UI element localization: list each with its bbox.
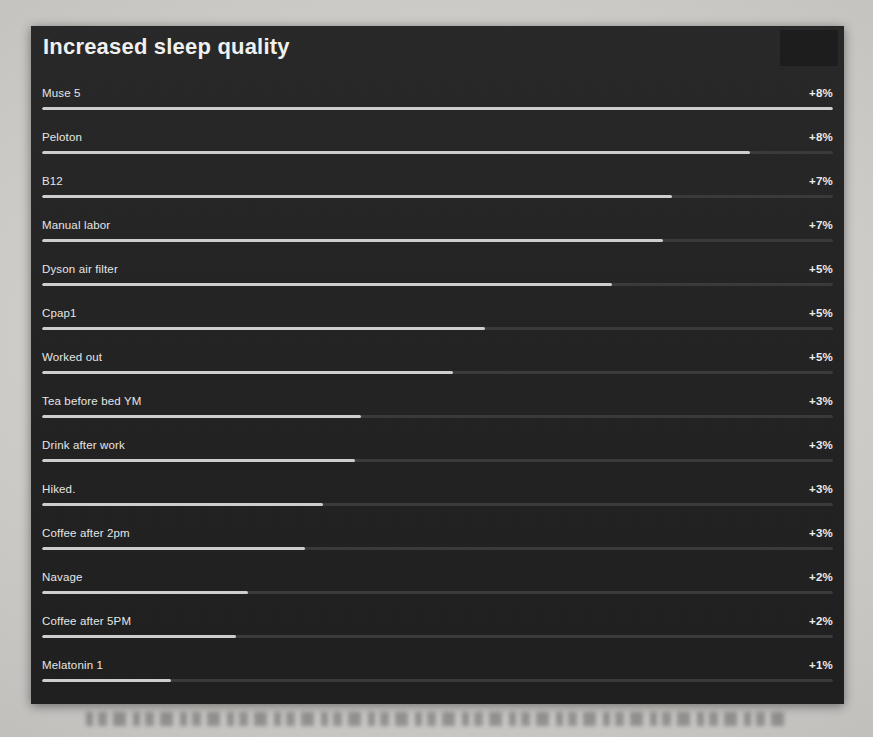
bar-row-label: Dyson air filter <box>42 263 118 275</box>
bar-row-label: Navage <box>42 571 83 583</box>
bar-fill <box>42 107 833 110</box>
bar-row[interactable]: Cpap1+5% <box>31 299 844 343</box>
bar-chart-rows: Muse 5+8%Peloton+8%B12+7%Manual labor+7%… <box>31 79 844 695</box>
bar-row[interactable]: Manual labor+7% <box>31 211 844 255</box>
bar-track[interactable] <box>42 415 833 418</box>
bar-row-label: Coffee after 2pm <box>42 527 130 539</box>
bar-row[interactable]: Dyson air filter+5% <box>31 255 844 299</box>
bar-row[interactable]: Peloton+8% <box>31 123 844 167</box>
bar-row-value: +5% <box>809 351 833 363</box>
bar-row[interactable]: Worked out+5% <box>31 343 844 387</box>
bar-track[interactable] <box>42 547 833 550</box>
sleep-quality-panel: Increased sleep quality Muse 5+8%Peloton… <box>31 26 844 704</box>
bar-row-value: +8% <box>809 131 833 143</box>
bar-row-value: +3% <box>809 439 833 451</box>
bar-row-value: +2% <box>809 571 833 583</box>
bar-row-label: Manual labor <box>42 219 110 231</box>
bar-row-value: +3% <box>809 395 833 407</box>
panel-corner-plate <box>780 30 838 66</box>
bar-track[interactable] <box>42 371 833 374</box>
bar-row-value: +3% <box>809 483 833 495</box>
bar-fill <box>42 283 612 286</box>
bar-track[interactable] <box>42 635 833 638</box>
bar-row-label: Coffee after 5PM <box>42 615 131 627</box>
bar-fill <box>42 371 453 374</box>
bar-row-value: +8% <box>809 87 833 99</box>
bar-row[interactable]: Navage+2% <box>31 563 844 607</box>
bar-row-label: Hiked. <box>42 483 76 495</box>
bar-row-value: +1% <box>809 659 833 671</box>
bar-row[interactable]: Hiked.+3% <box>31 475 844 519</box>
bar-row-label: Cpap1 <box>42 307 77 319</box>
bar-track[interactable] <box>42 283 833 286</box>
bar-fill <box>42 591 248 594</box>
bar-row-label: Worked out <box>42 351 102 363</box>
bar-fill <box>42 635 236 638</box>
bar-row-label: Peloton <box>42 131 82 143</box>
page-title: Increased sleep quality <box>43 34 290 60</box>
bar-fill <box>42 415 361 418</box>
bar-row[interactable]: Coffee after 5PM+2% <box>31 607 844 651</box>
bar-row-label: Muse 5 <box>42 87 81 99</box>
bar-row-label: Tea before bed YM <box>42 395 142 407</box>
bar-track[interactable] <box>42 107 833 110</box>
bar-row-value: +7% <box>809 219 833 231</box>
bar-row[interactable]: B12+7% <box>31 167 844 211</box>
bar-fill <box>42 151 750 154</box>
bar-fill <box>42 503 323 506</box>
bar-fill <box>42 679 171 682</box>
bar-track[interactable] <box>42 679 833 682</box>
bar-row[interactable]: Coffee after 2pm+3% <box>31 519 844 563</box>
bar-row-value: +7% <box>809 175 833 187</box>
bar-fill <box>42 327 485 330</box>
bar-track[interactable] <box>42 503 833 506</box>
bar-row-value: +3% <box>809 527 833 539</box>
bar-fill <box>42 547 305 550</box>
bar-row[interactable]: Tea before bed YM+3% <box>31 387 844 431</box>
bar-track[interactable] <box>42 591 833 594</box>
bar-track[interactable] <box>42 327 833 330</box>
bar-row-value: +2% <box>809 615 833 627</box>
bar-fill <box>42 239 663 242</box>
bar-fill <box>42 195 672 198</box>
bar-track[interactable] <box>42 151 833 154</box>
bar-row-label: Melatonin 1 <box>42 659 103 671</box>
bar-track[interactable] <box>42 239 833 242</box>
bar-track[interactable] <box>42 195 833 198</box>
bar-row-label: Drink after work <box>42 439 125 451</box>
bar-row[interactable]: Drink after work+3% <box>31 431 844 475</box>
bar-fill <box>42 459 355 462</box>
bar-track[interactable] <box>42 459 833 462</box>
bar-row-label: B12 <box>42 175 63 187</box>
bar-row-value: +5% <box>809 307 833 319</box>
bar-row-value: +5% <box>809 263 833 275</box>
bar-row[interactable]: Melatonin 1+1% <box>31 651 844 695</box>
blurred-caption-artifact <box>86 712 786 726</box>
bar-row[interactable]: Muse 5+8% <box>31 79 844 123</box>
